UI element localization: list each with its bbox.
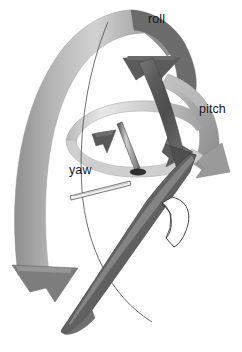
- pin-shaft: [117, 122, 140, 170]
- yaw-band-back: [66, 101, 208, 143]
- yaw-label: yaw: [69, 163, 92, 177]
- diagram-canvas: roll pitch yaw: [0, 0, 242, 352]
- rotation-axes-diagram: roll pitch yaw: [0, 0, 242, 352]
- pitch-label: pitch: [199, 102, 226, 116]
- roll-arrow-tail-arrowhead: [12, 265, 78, 302]
- roll-label: roll: [148, 12, 165, 26]
- probe-needle: [70, 181, 131, 200]
- pin-base: [130, 169, 146, 175]
- aircraft-body: [61, 22, 196, 334]
- fin-outline-shape: [162, 197, 189, 247]
- yaw-arrowhead-left: [92, 130, 116, 153]
- probe-needle-shape: [70, 181, 131, 200]
- fin-outline: [162, 197, 189, 247]
